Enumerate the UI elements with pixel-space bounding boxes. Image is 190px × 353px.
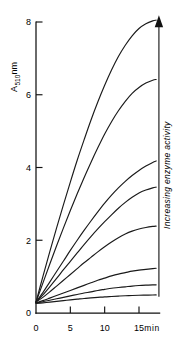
y-axis-tick-label: 0 bbox=[26, 308, 31, 318]
y-axis-tick-label: 6 bbox=[26, 90, 31, 100]
y-axis-title-base: A bbox=[9, 86, 19, 92]
y-axis-tick-label: 2 bbox=[26, 236, 31, 246]
y-axis-title-subscript: 510 bbox=[14, 74, 21, 85]
figure-root: 02468 051015 Increasing enzyme activity … bbox=[0, 0, 190, 353]
x-axis-tick-label: 0 bbox=[33, 323, 38, 333]
y-axis-tick-label: 8 bbox=[26, 17, 31, 27]
y-axis-title-unit: nm bbox=[9, 62, 19, 75]
x-axis-tick-label: 5 bbox=[68, 323, 73, 333]
activity-arrow-label: Increasing enzyme activity bbox=[162, 121, 172, 229]
x-axis-unit-label: min bbox=[144, 323, 160, 333]
x-axis-tick-label: 15 bbox=[134, 323, 144, 333]
y-axis-tick-label: 4 bbox=[26, 163, 31, 173]
x-axis-tick-label: 10 bbox=[100, 323, 110, 333]
enzyme-kinetics-chart: 02468 051015 Increasing enzyme activity … bbox=[0, 0, 190, 353]
